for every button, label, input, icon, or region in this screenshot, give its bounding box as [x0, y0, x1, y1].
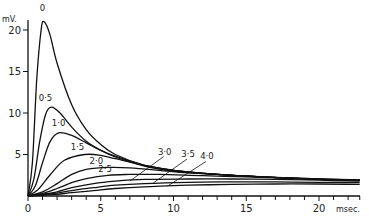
curve-label: 4·0: [200, 151, 214, 161]
y-tick-label: 20: [8, 25, 21, 36]
x-tick-label: 0: [25, 203, 31, 214]
curve-labels: 00·51·01·52·02·53·03·54·0: [39, 3, 214, 186]
x-tick-label: 10: [167, 203, 180, 214]
x-tick-label: 20: [313, 203, 326, 214]
curve-label: 1·0: [52, 118, 66, 128]
y-unit-label: mV.: [2, 15, 17, 24]
curve-label: 0: [40, 3, 45, 13]
y-tick-label: 5: [15, 149, 21, 160]
y-ticks: 5101520: [8, 25, 28, 161]
x-tick-label: 15: [240, 203, 253, 214]
x-ticks: 05101520: [25, 196, 360, 214]
curve-3-0: [28, 179, 360, 196]
curve-label: 3·5: [181, 149, 195, 159]
y-tick-label: 10: [8, 108, 21, 119]
x-tick-label: 5: [98, 203, 104, 214]
curves: [28, 21, 360, 196]
curve-label: 0·5: [39, 93, 53, 103]
x-unit-label: msec.: [336, 205, 360, 214]
curve-label: 2·5: [98, 164, 112, 174]
curve-0: [28, 21, 360, 196]
y-tick-label: 15: [8, 66, 21, 77]
curve-label: 1·5: [71, 142, 85, 152]
chart: 05101520 5101520 mV. msec. 00·51·01·52·0…: [0, 0, 369, 220]
curve-label: 3·0: [158, 147, 172, 157]
